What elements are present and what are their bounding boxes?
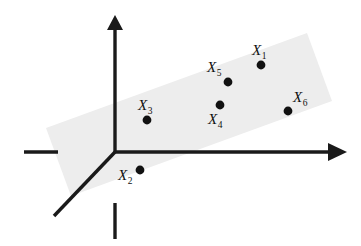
vertical-axis-arrowhead-icon [107,15,123,30]
diagram-canvas: X1X2X3X4X5X6 [0,0,361,246]
point-label-subscript: 6 [303,98,308,108]
point-label-subscript: 3 [148,106,153,116]
point-label-base: X [137,97,148,113]
point-label-x5: X5 [206,59,222,78]
data-point-x1 [257,61,266,70]
point-label-subscript: 5 [217,68,222,78]
data-point-x5 [224,78,233,87]
point-label-base: X [117,167,128,183]
point-label-base: X [251,42,262,58]
point-label-subscript: 1 [262,51,267,61]
point-label-subscript: 4 [218,120,223,130]
data-point-x3 [143,116,152,125]
point-label-subscript: 2 [128,176,133,186]
figure-root: X1X2X3X4X5X6 [0,0,361,246]
data-point-x2 [136,166,145,175]
point-label-base: X [206,59,217,75]
point-label-base: X [292,89,303,105]
point-label-base: X [207,111,218,127]
horizontal-axis-arrowhead-icon [328,143,347,161]
data-point-x6 [284,107,293,116]
data-point-x4 [216,101,225,110]
point-label-x1: X1 [251,42,267,61]
